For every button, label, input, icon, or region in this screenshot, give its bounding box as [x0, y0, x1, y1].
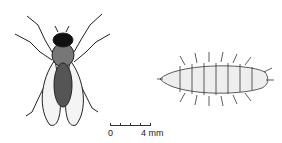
scale-tick	[130, 123, 131, 126]
adult-fly-drawing	[15, 14, 110, 125]
scale-bar: 0 4 mm	[108, 122, 158, 140]
larva-drawing	[157, 52, 274, 106]
scale-start-label: 0	[108, 128, 113, 138]
illustration-figure: 0 4 mm	[0, 0, 282, 143]
scale-tick	[120, 123, 121, 126]
scale-end-label: 4 mm	[141, 128, 164, 138]
scale-tick	[150, 123, 151, 126]
scale-tick	[110, 123, 111, 126]
scale-tick	[140, 123, 141, 126]
